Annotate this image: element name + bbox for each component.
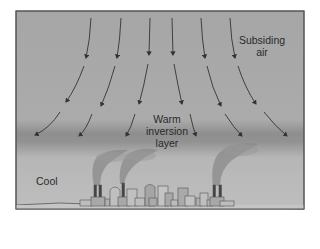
subsiding-air-label: Subsiding air xyxy=(232,34,292,58)
cool-label: Cool xyxy=(36,175,76,187)
warm-inversion-layer-label: Warm inversion layer xyxy=(137,113,197,149)
